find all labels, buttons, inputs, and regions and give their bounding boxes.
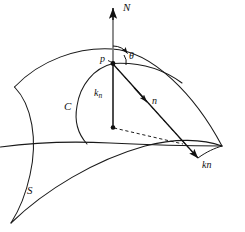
label-angle-theta: θ [129, 51, 134, 61]
label-surface-s: S [27, 185, 33, 196]
curve-c [76, 63, 182, 144]
curve-c-left-branch [76, 64, 113, 145]
normal-curvature-vector [111, 64, 116, 130]
label-normal-curvature: kn [94, 88, 102, 100]
label-point-p: p [100, 54, 105, 64]
label-normal-curvature-subscript: n [98, 91, 102, 100]
normal-curvature-endpoint-dot [111, 125, 116, 130]
surface-left-edge [11, 87, 33, 223]
figure-canvas [0, 0, 245, 232]
surface-bottom-edge [11, 140, 222, 223]
normal-curvature-figure: N p θ kn C n kn S [0, 0, 245, 232]
kn-tip-to-right-corner [198, 146, 222, 158]
surface-outline [1, 49, 223, 223]
p-label-leader [108, 61, 112, 63]
kn-tip-guide-lines [198, 146, 222, 158]
label-curve-c: C [64, 101, 71, 112]
label-curvature-vector: kn [202, 160, 211, 170]
label-principal-normal: n [152, 96, 157, 106]
label-surface-normal: N [123, 2, 130, 13]
curve-c-right-branch [113, 63, 182, 83]
